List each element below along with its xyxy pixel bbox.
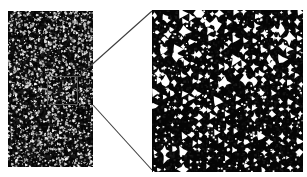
detail-micrograph-panel [152,10,303,172]
overview-micrograph-canvas [8,11,93,167]
overview-micrograph-panel [8,11,93,167]
lower-connector-line [93,105,152,170]
figure-root [0,0,307,177]
detail-micrograph-canvas [152,10,303,172]
